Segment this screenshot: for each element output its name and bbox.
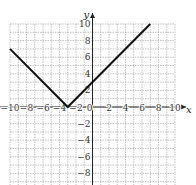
svg-text:0: 0 [87, 103, 93, 113]
y-axis-label: y [83, 9, 90, 20]
svg-text:6: 6 [139, 103, 145, 113]
svg-text:−2: −2 [77, 119, 90, 129]
svg-text:6: 6 [85, 52, 91, 62]
svg-text:−4: −4 [77, 135, 91, 145]
svg-text:−6: −6 [36, 103, 50, 113]
svg-text:4: 4 [123, 103, 129, 113]
axes [0, 13, 186, 185]
svg-text:2: 2 [106, 103, 112, 113]
svg-text:−10: −10 [1, 103, 20, 113]
x-axis-label: x [186, 104, 192, 115]
svg-text:−6: −6 [77, 152, 91, 162]
svg-text:−8: −8 [20, 103, 34, 113]
svg-text:8: 8 [156, 103, 162, 113]
absolute-value-graph: −10−8−6−4−20246810−8−6−4−2246810 x y [0, 0, 196, 185]
svg-text:4: 4 [85, 69, 91, 79]
svg-text:−8: −8 [77, 168, 91, 178]
svg-text:10: 10 [169, 103, 181, 113]
svg-text:8: 8 [85, 36, 91, 46]
svg-text:10: 10 [79, 19, 91, 29]
